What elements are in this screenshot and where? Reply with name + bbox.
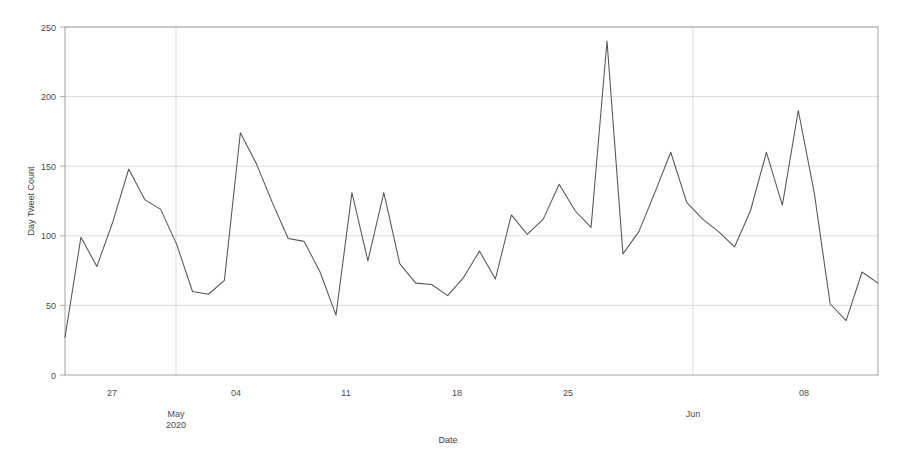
x-tick-label: 08 bbox=[799, 388, 809, 398]
y-tick-label: 200 bbox=[41, 92, 56, 102]
x-axis-title: Date bbox=[438, 435, 457, 445]
x-tick-label: 18 bbox=[452, 388, 462, 398]
year-label-2020: 2020 bbox=[166, 420, 186, 430]
y-tick-label: 50 bbox=[46, 301, 56, 311]
plot-frame bbox=[65, 27, 878, 375]
y-tick-label: 250 bbox=[41, 23, 56, 33]
chart-canvas: 250 200 150 100 50 0 27 04 11 18 25 08 M… bbox=[0, 0, 898, 457]
y-tick-label: 0 bbox=[51, 371, 56, 381]
y-tick-label: 150 bbox=[41, 162, 56, 172]
y-axis-title: Day Tweet Count bbox=[26, 166, 36, 235]
month-label-may: May bbox=[167, 409, 185, 419]
x-tick-label: 25 bbox=[563, 388, 573, 398]
x-tick-label: 27 bbox=[107, 388, 117, 398]
tweet-count-line-chart: 250 200 150 100 50 0 27 04 11 18 25 08 M… bbox=[0, 0, 898, 457]
month-label-jun: Jun bbox=[686, 409, 701, 419]
y-tick-label: 100 bbox=[41, 231, 56, 241]
x-tick-label: 04 bbox=[231, 388, 241, 398]
y-tick-labels: 250 200 150 100 50 0 bbox=[41, 23, 56, 381]
data-line-day-tweet-count bbox=[65, 41, 878, 338]
y-tickmarks bbox=[60, 27, 65, 375]
x-month-labels: May 2020 Jun bbox=[166, 409, 700, 430]
x-tick-labels: 27 04 11 18 25 08 bbox=[107, 388, 809, 398]
x-tick-label: 11 bbox=[341, 388, 350, 398]
x-gridlines bbox=[176, 27, 693, 375]
